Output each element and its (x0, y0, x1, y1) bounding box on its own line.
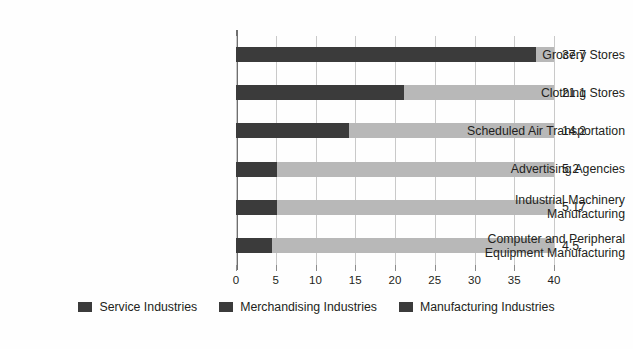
value-label: 21.1 (562, 86, 586, 100)
tick-mark (236, 265, 237, 271)
tick-mark (316, 265, 317, 271)
value-label: 14.2 (562, 124, 586, 138)
bar-segment-value (236, 200, 277, 215)
value-label: 4.5 (562, 239, 579, 253)
x-tick-label: 35 (508, 274, 521, 286)
tick-mark (475, 265, 476, 271)
x-tick-label: 15 (349, 274, 362, 286)
bar-segment-value (236, 123, 349, 138)
bar-segment-value (236, 85, 404, 100)
gridline (236, 36, 237, 265)
legend-item[interactable]: Manufacturing Industries (399, 300, 555, 314)
category-label: Computer and Peripheral Equipment Manufa… (405, 232, 633, 260)
x-tick-label: 0 (233, 274, 239, 286)
x-tick-label: 25 (428, 274, 441, 286)
x-tick-label: 20 (389, 274, 402, 286)
category-label: Scheduled Air Transportation (405, 124, 633, 138)
tick-mark (435, 265, 436, 271)
legend-swatch-icon (219, 302, 233, 312)
gridline (355, 36, 356, 265)
legend-label: Service Industries (99, 300, 197, 314)
x-tick-label: 40 (548, 274, 561, 286)
chart-legend: Service IndustriesMerchandising Industri… (0, 300, 633, 314)
tick-mark (514, 265, 515, 271)
tick-mark (395, 265, 396, 271)
category-label: Advertising Agencies (405, 162, 633, 176)
tick-mark (355, 265, 356, 271)
legend-label: Manufacturing Industries (420, 300, 555, 314)
legend-item[interactable]: Merchandising Industries (219, 300, 377, 314)
value-label: 37.7 (562, 48, 586, 62)
gridline (276, 36, 277, 265)
tick-mark (554, 265, 555, 271)
value-label: 5.2 (562, 162, 579, 176)
legend-label: Merchandising Industries (240, 300, 377, 314)
legend-swatch-icon (399, 302, 413, 312)
bar-chart: 0510152025303540 Grocery StoresClothing … (0, 0, 633, 349)
value-label: 5.17 (562, 200, 586, 214)
category-label: Clothing Stores (405, 86, 633, 100)
legend-swatch-icon (78, 302, 92, 312)
bar-segment-value (236, 238, 272, 253)
x-tick-label: 5 (273, 274, 279, 286)
bar-segment-value (236, 162, 277, 177)
gridline (316, 36, 317, 265)
category-label: Grocery Stores (405, 48, 633, 62)
legend-item[interactable]: Service Industries (78, 300, 197, 314)
x-tick-label: 30 (468, 274, 481, 286)
x-tick-label: 10 (309, 274, 322, 286)
tick-mark (276, 265, 277, 271)
gridline (395, 36, 396, 265)
category-label: Industrial Machinery Manufacturing (405, 193, 633, 221)
